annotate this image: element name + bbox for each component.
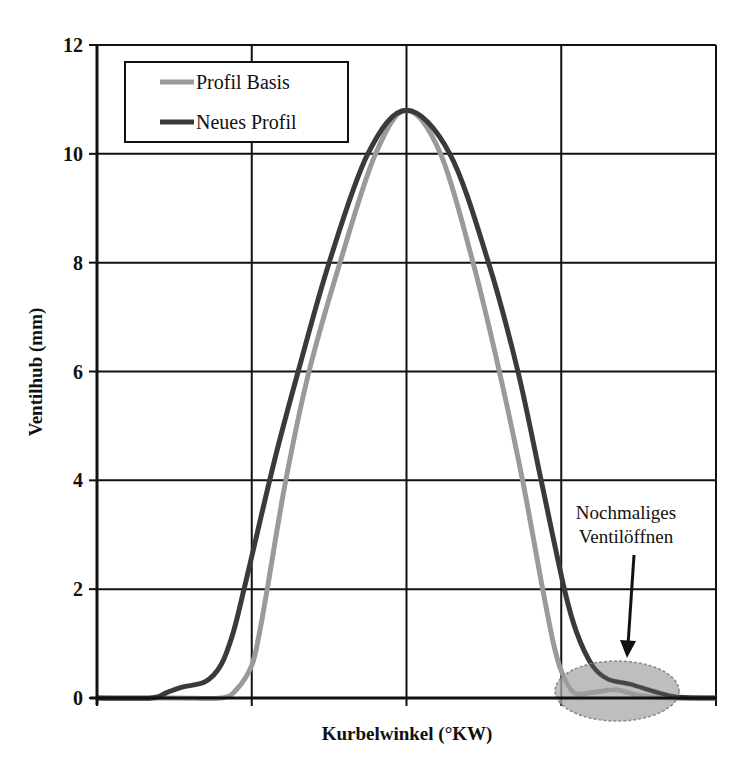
y-tick-label: 0: [73, 687, 83, 709]
y-axis-ticks: 024681012: [63, 34, 97, 709]
grid-lines: [97, 45, 716, 706]
legend-label-neues-profil: Neues Profil: [196, 111, 297, 133]
y-tick-label: 10: [63, 143, 83, 165]
y-tick-label: 2: [73, 578, 83, 600]
y-tick-label: 4: [73, 469, 83, 491]
y-tick-label: 8: [73, 252, 83, 274]
y-axis-title: Ventilhub (mm): [25, 308, 47, 437]
legend: Profil Basis Neues Profil: [125, 62, 348, 142]
annotation-line-2: Ventilöffnen: [579, 526, 674, 547]
y-tick-label: 12: [63, 34, 83, 56]
annotation-arrow-head: [620, 640, 636, 658]
y-tick-label: 6: [73, 361, 83, 383]
axes: [90, 45, 716, 705]
annotation-arrow-shaft: [628, 555, 634, 645]
line-chart: 024681012 Nochmaliges Ventilöffnen Profi…: [0, 0, 739, 773]
legend-label-profil-basis: Profil Basis: [196, 71, 290, 93]
x-axis-title: Kurbelwinkel (°KW): [322, 723, 493, 745]
annotation-line-1: Nochmaliges: [576, 502, 676, 523]
